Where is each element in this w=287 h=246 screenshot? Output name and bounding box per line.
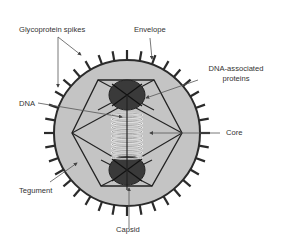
- label-core: Core: [226, 129, 242, 137]
- label-dna-associated-proteins-line2: proteins: [198, 75, 274, 83]
- label-dna-associated-proteins: DNA-associated proteins: [198, 65, 274, 82]
- label-glycoprotein-spikes: Glycoprotein spikes: [19, 26, 85, 34]
- label-dna: DNA: [19, 100, 35, 108]
- label-capsid: Capsid: [116, 226, 140, 234]
- label-envelope: Envelope: [134, 26, 166, 34]
- virion-diagram: /* placeholder */: [0, 0, 287, 246]
- label-tegument: Tegument: [19, 187, 52, 195]
- label-dna-associated-proteins-line1: DNA-associated: [198, 65, 274, 73]
